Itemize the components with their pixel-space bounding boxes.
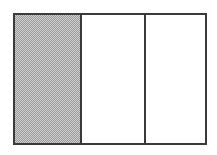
figure-canvas xyxy=(0,0,217,155)
cell-3-empty[interactable] xyxy=(144,15,205,143)
figure-frame xyxy=(13,13,207,145)
cell-1-shaded[interactable] xyxy=(15,15,80,143)
cell-2-empty[interactable] xyxy=(80,15,144,143)
